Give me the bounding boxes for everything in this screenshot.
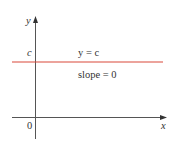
equation-label: y = c xyxy=(78,47,99,58)
y-axis-arrow-icon xyxy=(33,16,38,23)
y-axis-label: y xyxy=(25,15,31,26)
graph: y c y = c slope = 0 0 x xyxy=(0,0,176,150)
x-axis-label: x xyxy=(160,120,166,131)
y-intercept-label: c xyxy=(27,47,32,58)
slope-label: slope = 0 xyxy=(78,69,117,80)
origin-label: 0 xyxy=(27,120,32,131)
